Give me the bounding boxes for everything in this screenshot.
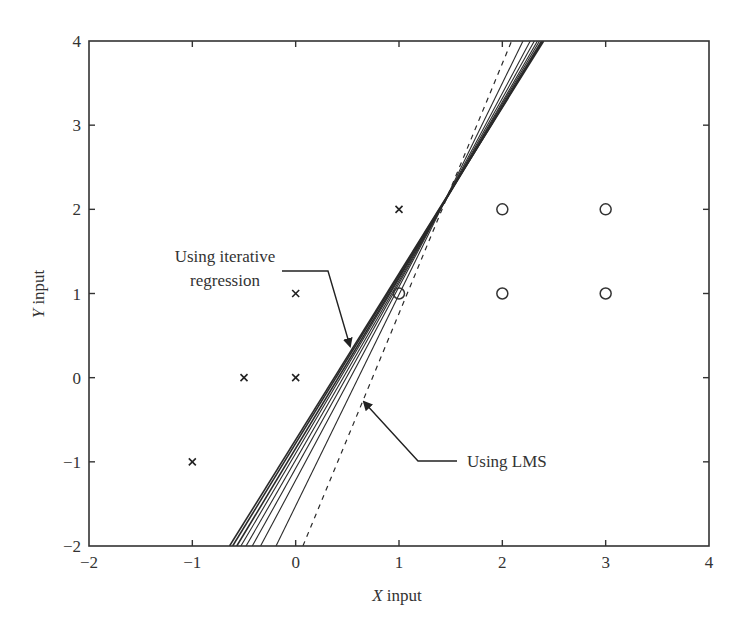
- annotation-lms-arrow: [364, 402, 457, 461]
- data-points: [189, 204, 611, 466]
- circle-marker: [497, 204, 508, 215]
- circle-marker: [600, 288, 611, 299]
- circle-marker: [497, 288, 508, 299]
- y-tick-label: −1: [63, 453, 81, 472]
- x-tick-label: −2: [80, 553, 98, 572]
- x-tick-label: 0: [291, 553, 300, 572]
- y-tick-label: 3: [73, 116, 82, 135]
- annotation-iterative-line1: Using iterative: [175, 247, 276, 266]
- x-marker: [292, 290, 299, 297]
- y-tick-label: 0: [73, 369, 82, 388]
- y-tick-label: −2: [63, 537, 81, 556]
- x-tick-label: 3: [601, 553, 610, 572]
- y-tick-label: 1: [73, 285, 82, 304]
- annotation-lms: Using LMS: [364, 402, 547, 471]
- y-tick-label: 2: [73, 200, 82, 219]
- x-marker: [189, 458, 196, 465]
- x-tick-label: 4: [705, 553, 714, 572]
- annotation-iterative-line2: regression: [190, 271, 260, 290]
- x-marker: [241, 374, 248, 381]
- x-tick-label: −1: [183, 553, 201, 572]
- x-marker: [396, 206, 403, 213]
- y-tick-label: 4: [73, 32, 82, 51]
- chart-canvas: −2−101234−2−101234 X input Y input Using…: [0, 0, 745, 633]
- x-axis-label: X input: [371, 586, 422, 605]
- annotation-iterative-arrow: [282, 271, 350, 346]
- x-marker: [292, 374, 299, 381]
- annotation-lms-label: Using LMS: [467, 452, 547, 471]
- y-axis-label: Y input: [29, 269, 48, 318]
- x-tick-label: 1: [395, 553, 404, 572]
- x-tick-label: 2: [498, 553, 507, 572]
- annotation-iterative-regression: Using iterative regression: [175, 247, 350, 346]
- circle-marker: [600, 204, 611, 215]
